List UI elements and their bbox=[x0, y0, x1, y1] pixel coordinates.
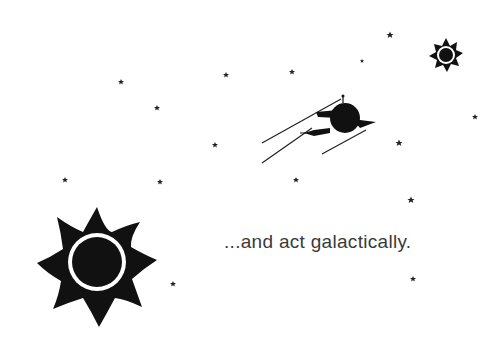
space-illustration: ...and act galactically. bbox=[0, 0, 493, 345]
caption-text: ...and act galactically. bbox=[224, 231, 411, 253]
small-sun-icon bbox=[429, 38, 463, 72]
large-sun-icon bbox=[37, 207, 157, 327]
